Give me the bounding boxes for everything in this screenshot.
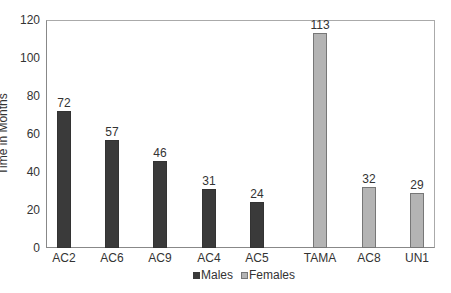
- legend: Males Females: [193, 268, 295, 282]
- x-tick-label: UN1: [405, 251, 429, 265]
- value-label: 31: [202, 174, 215, 188]
- y-tick-label: 80: [27, 89, 40, 103]
- x-tick-label: AC2: [52, 251, 75, 265]
- bar-ac2: [57, 111, 71, 248]
- y-tick-label: 0: [33, 241, 40, 255]
- legend-item-males: Males: [193, 268, 233, 282]
- bar-ac9: [153, 161, 167, 248]
- y-tick-label: 20: [27, 203, 40, 217]
- x-tick-label: AC9: [148, 251, 171, 265]
- y-tick-label: 60: [27, 127, 40, 141]
- y-tick-label: 120: [20, 13, 40, 27]
- bar-ac4: [202, 189, 216, 248]
- x-tick-label: AC4: [197, 251, 220, 265]
- value-label: 24: [250, 187, 263, 201]
- x-tick-label: AC5: [245, 251, 268, 265]
- bar-tama: [313, 33, 327, 248]
- bar-ac8: [362, 187, 376, 248]
- value-label: 113: [310, 18, 329, 32]
- males-swatch-icon: [193, 272, 200, 279]
- value-label: 29: [410, 178, 423, 192]
- x-tick-label: AC8: [357, 251, 380, 265]
- value-label: 57: [105, 125, 118, 139]
- legend-item-females: Females: [241, 268, 295, 282]
- bar-ac5: [250, 202, 264, 248]
- value-label: 46: [153, 146, 166, 160]
- bar-un1: [410, 193, 424, 248]
- females-swatch-icon: [241, 272, 248, 279]
- y-axis-title: Time in Months: [0, 93, 10, 175]
- value-label: 32: [362, 172, 375, 186]
- x-tick-label: AC6: [100, 251, 123, 265]
- y-tick-label: 100: [20, 51, 40, 65]
- legend-label-males: Males: [201, 268, 233, 282]
- value-label: 72: [57, 96, 70, 110]
- y-tick-label: 40: [27, 165, 40, 179]
- legend-label-females: Females: [249, 268, 295, 282]
- bar-ac6: [105, 140, 119, 248]
- x-tick-label: TAMA: [304, 251, 336, 265]
